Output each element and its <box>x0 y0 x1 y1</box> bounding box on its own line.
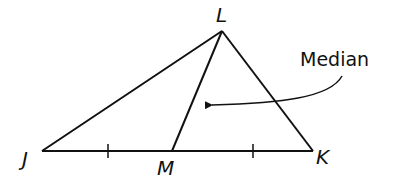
side-jl <box>42 31 222 151</box>
vertex-label-j: J <box>18 147 28 171</box>
triangle-median-diagram: L J M K Median <box>0 0 399 192</box>
median-lm <box>172 31 222 151</box>
vertex-label-m: M <box>157 156 174 180</box>
diagram-svg: L J M K Median <box>0 0 399 192</box>
median-arrow-icon <box>212 76 342 105</box>
vertex-label-k: K <box>316 145 331 169</box>
median-caption: Median <box>300 48 369 70</box>
vertex-label-l: L <box>216 3 227 27</box>
